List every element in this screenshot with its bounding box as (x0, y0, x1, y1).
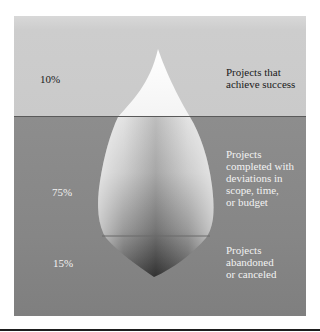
label-success: Projects that achieve success (226, 66, 295, 90)
label-abandoned: Projects abandoned or canceled (226, 244, 276, 280)
percent-abandoned: 15% (53, 257, 73, 269)
iceberg-diagram: 10% Projects that achieve success 75% Pr… (14, 16, 306, 316)
percent-deviations: 75% (52, 186, 72, 198)
waterline (14, 116, 306, 117)
label-deviations: Projects completed with deviations in sc… (226, 148, 294, 208)
percent-success: 10% (40, 73, 60, 85)
bottom-rule (0, 329, 320, 331)
